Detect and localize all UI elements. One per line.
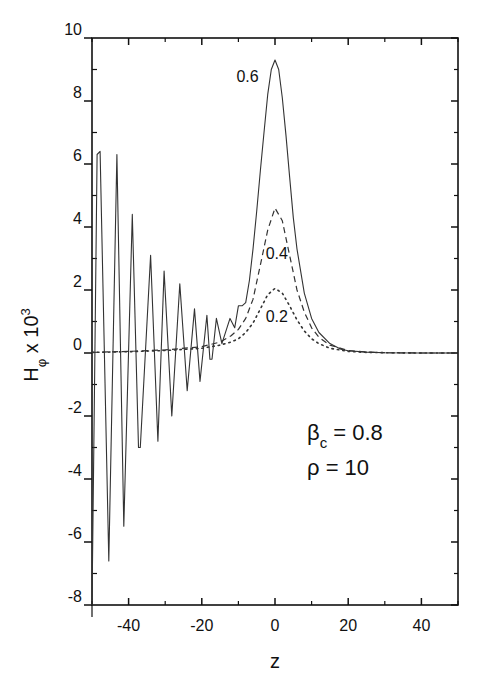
y-tick-label: 6 bbox=[73, 147, 82, 164]
parameter-box: βc = 0.8 ρ = 10 bbox=[307, 420, 383, 480]
param-beta: βc = 0.8 bbox=[307, 420, 383, 451]
curve-labels: 0.60.40.2 bbox=[236, 68, 288, 324]
y-axis-title-mid: x 10 bbox=[20, 315, 42, 358]
curve-label: 0.2 bbox=[266, 308, 288, 325]
x-axis-title: z bbox=[270, 650, 280, 672]
x-tick-label: 40 bbox=[413, 617, 431, 634]
y-tick-label: -8 bbox=[68, 588, 82, 605]
x-tick-label: 20 bbox=[339, 617, 357, 634]
y-axis-title-main: H bbox=[20, 367, 42, 381]
series-0-6 bbox=[92, 60, 458, 605]
x-tick-label: -20 bbox=[190, 617, 213, 634]
chart: -40-2002040 -8-6-4-20246810 0.60.40.2 z … bbox=[0, 0, 478, 678]
y-tick-label: 0 bbox=[73, 336, 82, 353]
y-tick-label: -6 bbox=[68, 525, 82, 542]
y-tick-label: 2 bbox=[73, 273, 82, 290]
y-tick-label: 10 bbox=[64, 21, 82, 38]
y-axis-title-sub: φ bbox=[34, 359, 49, 367]
y-axis-title-sup: 3 bbox=[18, 308, 33, 315]
y-tick-label: -2 bbox=[68, 399, 82, 416]
y-tick-label: 4 bbox=[73, 210, 82, 227]
curve-label: 0.6 bbox=[236, 68, 258, 85]
data-series bbox=[92, 60, 458, 605]
y-axis-title: Hφ x 103 bbox=[18, 308, 49, 381]
curve-label: 0.4 bbox=[266, 245, 288, 262]
svg-text:Hφ x 103: Hφ x 103 bbox=[18, 308, 49, 381]
x-tick-label: -40 bbox=[117, 617, 140, 634]
param-rho: ρ = 10 bbox=[307, 455, 369, 480]
y-tick-label: 8 bbox=[73, 84, 82, 101]
y-tick-label: -4 bbox=[68, 462, 82, 479]
y-axis-tick-labels: -8-6-4-20246810 bbox=[64, 21, 82, 605]
x-tick-label: 0 bbox=[271, 617, 280, 634]
x-axis-tick-labels: -40-2002040 bbox=[117, 617, 430, 634]
